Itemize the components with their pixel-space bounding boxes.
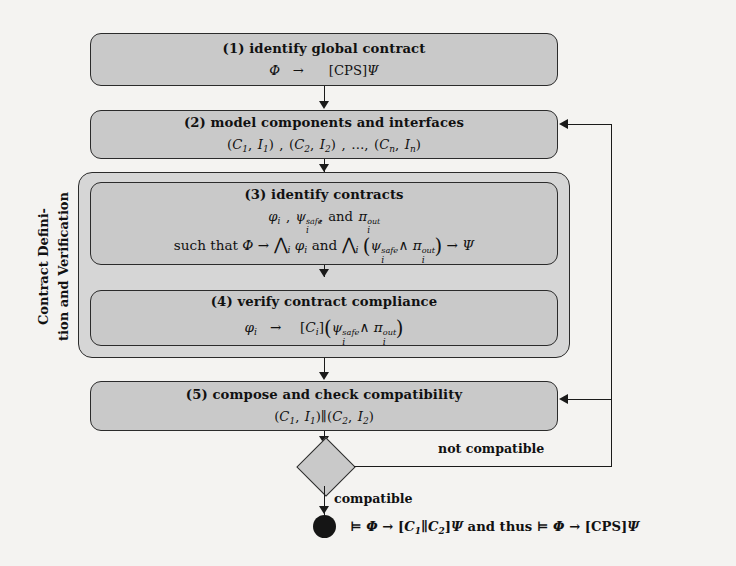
section-label-contract-definition-and-verification: Contract Defini- tion and Verification xyxy=(34,172,73,362)
step-4-formula: φi→[Ci](ψsafei ∧ πouti) xyxy=(245,315,404,344)
edge-label-not-compatible: not compatible xyxy=(438,441,544,456)
step-3-formula-2: such that Φ → ⋀i φi and ⋀i (ψsafei ∧ πou… xyxy=(174,232,474,262)
flowchart-diagram: Contract Defini- tion and Verification (… xyxy=(0,0,736,566)
arrow-head-decision-to-result xyxy=(319,506,329,514)
feedback-edge-horizontal-from-decision xyxy=(354,466,612,467)
step-5-formula: (C1,I1)∥(C2,I2) xyxy=(274,407,374,428)
step-3-title: (3) identify contracts xyxy=(244,185,403,204)
compatibility-decision-diamond[interactable] xyxy=(296,437,355,496)
step-4-title: (4) verify contract compliance xyxy=(211,292,437,311)
feedback-edge-vertical xyxy=(611,124,612,467)
section-label-line1: Contract Defini- xyxy=(34,172,54,362)
step-1-title: (1) identify global contract xyxy=(223,39,426,58)
step-3-formula: φi,ψsafei,andπouti xyxy=(268,207,380,228)
step-4-verify-contract-compliance[interactable]: (4) verify contract compliance φi→[Ci](ψ… xyxy=(90,290,558,346)
step-5-title: (5) compose and check compatibility xyxy=(186,385,462,404)
feedback-edge-into-step2 xyxy=(568,124,612,125)
section-label-line2: tion and Verification xyxy=(53,172,73,362)
arrow-head-step2-to-step3 xyxy=(319,164,329,172)
arrow-head-step1-to-step2 xyxy=(319,101,329,109)
step-2-model-components-and-interfaces[interactable]: (2) model components and interfaces (C1,… xyxy=(90,110,558,159)
feedback-edge-into-step5 xyxy=(568,399,612,400)
result-end-node xyxy=(313,515,336,538)
edge-label-compatible: compatible xyxy=(334,491,413,506)
arrow-head-step4-to-step5 xyxy=(319,372,329,380)
step-2-formula: (C1,I1),(C2,I2),…,(Cn,In) xyxy=(227,135,421,156)
arrow-head-feedback-into-step5 xyxy=(559,394,568,404)
step-1-formula: Φ→[CPS]Ψ xyxy=(269,61,378,80)
step-2-title: (2) model components and interfaces xyxy=(184,113,464,132)
step-1-identify-global-contract[interactable]: (1) identify global contract Φ→[CPS]Ψ xyxy=(90,33,558,86)
step-3-identify-contracts[interactable]: (3) identify contracts φi,ψsafei,andπout… xyxy=(90,182,558,265)
arrow-head-feedback-into-step2 xyxy=(559,119,568,129)
arrow-head-step3-to-step4 xyxy=(319,269,329,277)
result-formula: ⊨ Φ → [C1∥C2]Ψ and thus ⊨ Φ → [CPS]Ψ xyxy=(350,519,639,536)
step-5-compose-and-check-compatibility[interactable]: (5) compose and check compatibility (C1,… xyxy=(90,381,558,431)
